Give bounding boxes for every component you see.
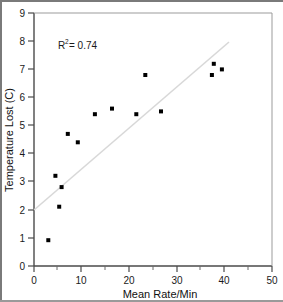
- x-tick-label: 20: [123, 275, 135, 286]
- x-axis-title: Mean Rate/Min: [123, 288, 198, 300]
- data-point: [143, 73, 147, 77]
- x-tick-label: 30: [171, 275, 183, 286]
- x-tick-label: 40: [218, 275, 230, 286]
- data-point: [220, 67, 224, 71]
- data-point: [60, 185, 64, 189]
- y-tick-label: 3: [19, 176, 25, 187]
- y-tick-label: 5: [19, 120, 25, 131]
- data-point: [93, 112, 97, 116]
- y-tick-label: 8: [19, 36, 25, 47]
- data-point: [53, 174, 57, 178]
- r-squared-annotation: R 2 = 0.74: [58, 38, 98, 51]
- y-axis-ticks: [28, 13, 34, 266]
- y-tick-label: 6: [19, 92, 25, 103]
- data-point: [210, 73, 214, 77]
- figure-container: 9 8 7 6 5 4 3 2 1 0 0 10: [0, 0, 283, 302]
- data-point: [66, 132, 70, 136]
- y-tick-label: 7: [19, 64, 25, 75]
- data-point: [134, 112, 138, 116]
- data-point: [46, 238, 50, 242]
- data-point: [110, 107, 114, 111]
- data-point: [159, 109, 163, 113]
- y-axis-tick-labels: 9 8 7 6 5 4 3 2 1 0: [19, 8, 25, 272]
- data-point: [57, 205, 61, 209]
- data-point: [76, 140, 80, 144]
- scatter-plot: 9 8 7 6 5 4 3 2 1 0 0 10: [0, 0, 283, 302]
- data-point: [212, 62, 216, 66]
- y-tick-label: 0: [19, 261, 25, 272]
- x-axis-tick-labels: 0 10 20 30 40 50: [31, 275, 278, 286]
- y-axis-title: Temperature Lost (C): [3, 88, 15, 192]
- x-axis-ticks: [34, 266, 272, 272]
- y-tick-label: 2: [19, 205, 25, 216]
- x-tick-label: 10: [75, 275, 87, 286]
- y-tick-label: 1: [19, 233, 25, 244]
- y-tick-label: 4: [19, 148, 25, 159]
- y-tick-label: 9: [19, 8, 25, 19]
- x-tick-label: 50: [266, 275, 278, 286]
- r-squared-suffix: = 0.74: [69, 40, 98, 51]
- x-tick-label: 0: [31, 275, 37, 286]
